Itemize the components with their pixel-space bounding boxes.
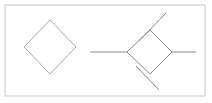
outer-border-frame [5,5,205,96]
figure-svg [0,0,212,103]
diagram-canvas [0,0,212,103]
